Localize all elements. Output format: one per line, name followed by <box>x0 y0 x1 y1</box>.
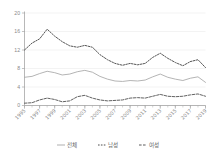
y-axis-tick-label: 12 <box>14 47 20 53</box>
y-axis-tick-label: 16 <box>14 28 20 34</box>
x-axis-tick-label: 1997 <box>29 107 42 120</box>
gridlines <box>25 13 206 106</box>
x-axis-tick-label: 2001 <box>59 107 72 120</box>
x-axis-tick-label: 2007 <box>104 107 117 120</box>
x-axis-tick-label: 2011 <box>134 107 147 120</box>
series-line-2 <box>25 94 206 103</box>
chart-legend: 전체남성여성 <box>57 141 159 149</box>
x-axis: 1995199719992001200320052007200920112013… <box>14 106 208 121</box>
x-axis-tick-label: 2013 <box>149 107 162 120</box>
y-axis-tick-label: 20 <box>14 10 20 16</box>
chart-canvas: 048121620 199519971999200120032005200720… <box>0 0 210 159</box>
x-axis-tick-label: 2009 <box>119 107 132 120</box>
x-axis-tick-label: 2017 <box>179 107 192 120</box>
x-axis-tick-label: 1995 <box>14 107 27 120</box>
x-axis-tick-label: 2019 <box>195 107 208 120</box>
x-axis-tick-label: 2003 <box>74 107 87 120</box>
x-axis-tick-label: 2015 <box>164 107 177 120</box>
x-axis-tick-label: 2005 <box>89 107 102 120</box>
y-axis-tick-label: 8 <box>17 65 20 71</box>
line-chart: 048121620 199519971999200120032005200720… <box>0 0 210 159</box>
legend-label-2: 여성 <box>149 141 159 149</box>
series-line-1 <box>25 29 206 67</box>
y-axis-tick-label: 4 <box>17 84 20 90</box>
legend-label-1: 남성 <box>108 141 118 148</box>
y-axis: 048121620 <box>14 10 24 109</box>
series-line-0 <box>25 70 206 82</box>
series-lines <box>25 29 206 103</box>
legend-label-0: 전체 <box>67 141 77 149</box>
y-axis-tick-label: 0 <box>17 102 20 108</box>
x-axis-tick-label: 1999 <box>44 107 57 120</box>
